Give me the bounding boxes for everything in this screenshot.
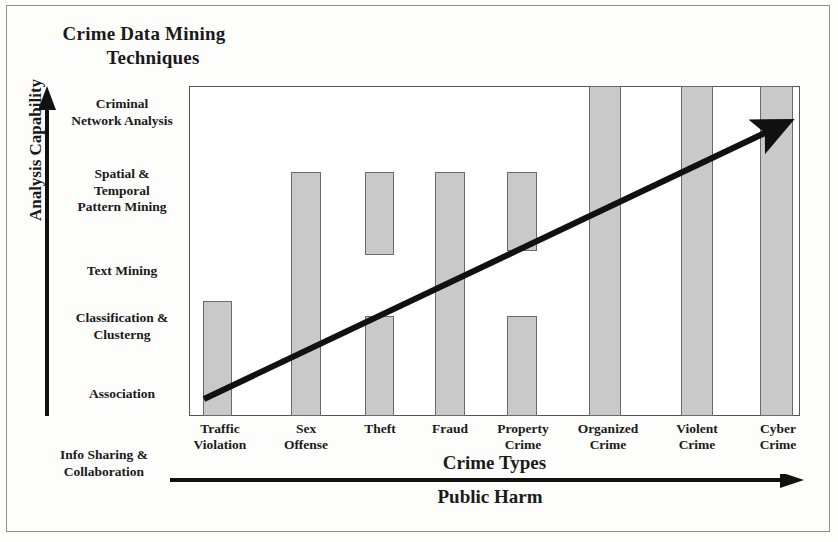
x-tick-line: Sex [266,421,346,437]
x-tick-label-sex-offense: Sex Offense [266,421,346,453]
info-sharing-line-2: Collaboration [22,463,186,480]
y-tick-line: Temporal [58,183,186,200]
x-tick-line: Offense [266,437,346,453]
x-tick-label-traffic-violation: Traffic Violation [180,421,260,453]
y-axis-title: Analysis Capability [26,20,46,280]
x-tick-line: Traffic [180,421,260,437]
bar-organized-crime [589,86,621,416]
y-tick-line: Spatial & [58,166,186,183]
x-tick-label-cyber-crime: Cyber Crime [738,421,818,453]
bar-theft-lower-segment [365,316,394,416]
bar-fraud [435,172,465,416]
y-tick-line: Criminal [58,96,186,113]
info-sharing-line-1: Info Sharing & [22,446,186,463]
x-axis-title: Crime Types [189,452,800,474]
x-tick-line: Fraud [410,421,490,437]
y-tick-line: Network Analysis [58,113,186,130]
x-tick-label-organized-crime: Organized Crime [562,421,654,453]
y-tick-line: Association [58,386,186,403]
x-tick-line: Theft [340,421,420,437]
x-tick-line: Violation [180,437,260,453]
x-tick-label-theft: Theft [340,421,420,437]
figure-canvas: Crime Data Mining Techniques Analysis Ca… [0,0,838,542]
x-tick-line: Cyber [738,421,818,437]
y-tick-label-criminal-network-analysis: Criminal Network Analysis [58,96,186,129]
y-tick-line: Text Mining [58,263,186,280]
page-title: Crime Data Mining Techniques [24,22,264,70]
x-tick-line: Crime [480,437,566,453]
x-tick-label-violent-crime: Violent Crime [654,421,740,453]
x-tick-line: Crime [654,437,740,453]
bar-property-crime-lower-segment [507,316,537,416]
y-tick-label-association: Association [58,386,186,403]
y-tick-line: Pattern Mining [58,199,186,216]
plot-area [189,86,800,416]
x-tick-line: Property [480,421,566,437]
x-tick-line: Organized [562,421,654,437]
y-tick-label-classification-clustering: Classification & Clusterng [58,310,186,343]
title-line-1: Crime Data Mining [24,22,264,46]
info-sharing-note: Info Sharing & Collaboration [22,446,186,480]
bar-property-crime-upper-segment [507,172,537,251]
x-tick-label-fraud: Fraud [410,421,490,437]
x-tick-label-property-crime: Property Crime [480,421,566,453]
y-tick-line: Clusterng [58,327,186,344]
y-tick-label-spatial-temporal-pattern-mining: Spatial & Temporal Pattern Mining [58,166,186,216]
bar-cyber-crime [760,86,793,416]
y-tick-line: Classification & [58,310,186,327]
bar-violent-crime [681,86,713,416]
x-tick-line: Violent [654,421,740,437]
x-tick-line: Crime [738,437,818,453]
bar-theft-upper-segment [365,172,394,255]
title-line-2: Techniques [24,46,264,70]
x-tick-line: Crime [562,437,654,453]
secondary-x-axis-title: Public Harm [170,486,810,508]
bar-sex-offense [291,172,321,416]
y-tick-label-text-mining: Text Mining [58,263,186,280]
bar-traffic-violation [203,301,232,416]
